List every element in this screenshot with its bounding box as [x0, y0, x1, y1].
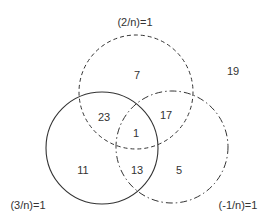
- region-all-three: 1: [133, 127, 139, 139]
- set-circle-3-over-n: [46, 92, 158, 204]
- venn-diagram: [0, 0, 275, 221]
- region-outside: 19: [227, 65, 239, 77]
- region-only-2: 7: [134, 69, 140, 81]
- region-2-and-3: 23: [98, 111, 110, 123]
- region-only-minus1: 5: [176, 164, 182, 176]
- set-label-minus1-over-n: (-1/n)=1: [219, 199, 258, 211]
- set-label-3-over-n: (3/n)=1: [10, 199, 45, 211]
- set-circle-minus1-over-n: [116, 91, 228, 203]
- region-3-and-minus1: 13: [131, 164, 143, 176]
- region-only-3: 11: [77, 164, 88, 176]
- region-2-and-minus1: 17: [160, 109, 172, 121]
- set-label-2-over-n: (2/n)=1: [117, 16, 152, 28]
